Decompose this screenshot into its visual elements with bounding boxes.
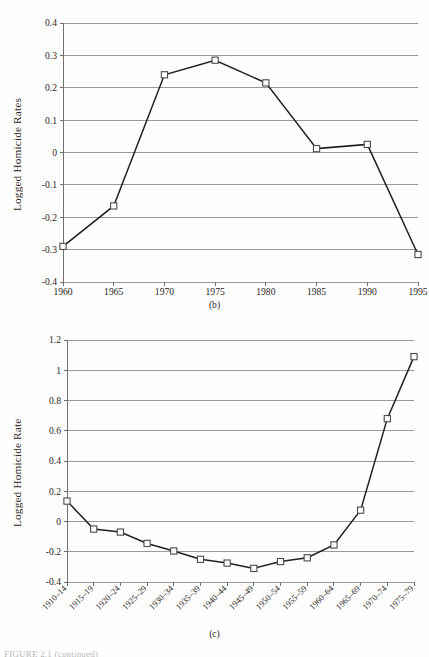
data-point-marker [91, 526, 97, 532]
data-point-marker [224, 560, 230, 566]
data-point-marker [60, 243, 66, 249]
y-tick-label: 0.4 [49, 455, 61, 466]
y-tick-label: 0.2 [49, 486, 61, 497]
x-tick-label: 1975 [206, 286, 225, 297]
x-tick-label: 1960–64 [307, 583, 336, 612]
x-tick-label: 1965 [104, 286, 123, 297]
x-tick-label: 1920–24 [93, 583, 122, 612]
data-point-marker [277, 558, 283, 564]
panel-caption-b: (b) [0, 299, 429, 310]
x-tick-label: 1945–49 [227, 583, 255, 611]
data-point-marker [64, 498, 70, 504]
data-point-marker [171, 548, 177, 554]
y-axis-title-c: Logged Homicide Rate [11, 378, 23, 568]
y-tick-label: 0 [52, 147, 57, 158]
plot-area-c: 1.210.80.60.40.20-0.2-0.41910–141915–191… [0, 318, 429, 628]
y-tick-label: 0.3 [45, 50, 57, 61]
x-tick-label: 1960 [53, 286, 72, 297]
x-tick-label: 1975–79 [387, 583, 415, 611]
x-tick-label: 1965–69 [334, 583, 362, 611]
data-point-marker [358, 507, 364, 513]
x-tick-label: 1980 [256, 286, 275, 297]
panel-caption-c: (c) [0, 628, 429, 639]
x-tick-label: 1985 [307, 286, 326, 297]
y-tick-label: -0.2 [42, 212, 57, 223]
data-point-marker [161, 72, 167, 78]
y-tick-label: -0.1 [42, 179, 57, 190]
chart-panel-b: Logged Homicide Rates 0.40.30.20.10-0.1-… [0, 0, 429, 318]
y-tick-label: 1 [56, 365, 61, 376]
data-point-marker [111, 203, 117, 209]
data-point-marker [364, 141, 370, 147]
data-point-marker [411, 354, 417, 360]
chart-panel-c: 1.210.80.60.40.20-0.2-0.41910–141915–191… [0, 318, 429, 628]
y-tick-label: 0.1 [45, 115, 57, 126]
figure-note: FIGURE 2.1 (continued) [4, 649, 98, 657]
x-tick-label: 1940–44 [200, 583, 229, 612]
data-point-marker [331, 542, 337, 548]
data-series-line [67, 357, 414, 569]
figure-page: Logged Homicide Rates 0.40.30.20.10-0.1-… [0, 0, 429, 657]
y-tick-label: -0.2 [46, 546, 61, 557]
y-tick-label: 0.6 [49, 425, 61, 436]
y-tick-label: -0.3 [42, 244, 57, 255]
x-tick-label: 1935–39 [174, 583, 202, 611]
y-tick-label: 0.8 [49, 395, 61, 406]
x-tick-label: 1970 [155, 286, 174, 297]
data-point-marker [212, 57, 218, 63]
data-point-marker [384, 416, 390, 422]
y-tick-label: 0 [56, 516, 61, 527]
y-tick-label: 0.4 [45, 17, 57, 28]
data-point-marker [304, 555, 310, 561]
plot-area-b: 0.40.30.20.10-0.1-0.2-0.3-0.419601965197… [0, 0, 429, 300]
x-tick-label: 1925–29 [120, 583, 148, 611]
x-tick-label: 1990 [358, 286, 377, 297]
x-tick-label: 1955–59 [280, 583, 308, 611]
x-tick-label: 1915–19 [67, 583, 95, 611]
data-point-marker [117, 529, 123, 535]
line-chart-c: 1.210.80.60.40.20-0.2-0.41910–141915–191… [0, 318, 429, 628]
line-chart-b: 0.40.30.20.10-0.1-0.2-0.3-0.419601965197… [0, 0, 429, 300]
data-series-line [63, 60, 418, 254]
data-point-marker [197, 556, 203, 562]
x-tick-label: 1970–74 [360, 583, 389, 612]
data-point-marker [251, 565, 257, 571]
data-point-marker [263, 80, 269, 86]
x-tick-label: 1930–34 [147, 583, 176, 612]
data-point-marker [144, 540, 150, 546]
y-tick-label: 1.2 [49, 334, 61, 345]
y-tick-label: 0.2 [45, 82, 57, 93]
x-tick-label: 1995 [408, 286, 427, 297]
data-point-marker [415, 251, 421, 257]
data-point-marker [313, 146, 319, 152]
x-tick-label: 1950–54 [254, 583, 283, 612]
